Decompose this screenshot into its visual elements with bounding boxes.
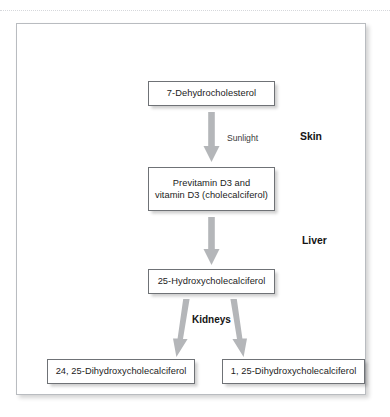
arrow-down-kidneys-left — [170, 299, 192, 357]
node-7-dehydrocholesterol: 7-Dehydrocholesterol — [148, 81, 275, 106]
edge-label-sunlight: Sunlight — [227, 133, 258, 143]
arrow-down-liver — [203, 217, 220, 265]
node-previtamin-d3: Previtamin D3 and vitamin D3 (cholecalci… — [148, 167, 275, 211]
node-label-line1: Previtamin D3 and — [173, 178, 250, 188]
page-top-rule — [0, 10, 390, 12]
organ-label-skin: Skin — [300, 131, 322, 142]
figure-frame: 7-Dehydrocholesterol Sunlight Skin Previ… — [16, 23, 366, 395]
edge-label-kidneys: Kidneys — [192, 314, 231, 325]
node-24-25-dihydroxycholecalciferol: 24, 25-Dihydroxycholecalciferol — [47, 359, 195, 384]
organ-label-liver: Liver — [302, 235, 327, 246]
node-label-line2: vitamin D3 (cholecalciferol) — [155, 190, 268, 200]
arrow-down-sunlight — [203, 112, 220, 162]
node-label-multiline: Previtamin D3 and vitamin D3 (cholecalci… — [155, 177, 268, 202]
node-1-25-dihydroxycholecalciferol: 1, 25-Dihydroxycholecalciferol — [222, 359, 365, 384]
node-25-hydroxycholecalciferol: 25-Hydroxycholecalciferol — [148, 269, 275, 294]
node-label: 25-Hydroxycholecalciferol — [158, 275, 266, 288]
arrow-down-kidneys-right — [228, 299, 250, 357]
node-label: 1, 25-Dihydroxycholecalciferol — [231, 365, 357, 378]
node-label: 24, 25-Dihydroxycholecalciferol — [56, 365, 187, 378]
node-label: 7-Dehydrocholesterol — [167, 87, 256, 100]
